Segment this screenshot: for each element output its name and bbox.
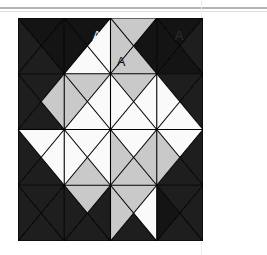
area-label-2: A xyxy=(117,54,126,69)
top-divider-rule xyxy=(0,7,267,9)
area-label-1: A xyxy=(93,28,102,43)
grid-line-group xyxy=(18,18,203,241)
triangle-quilt-figure: AAAA xyxy=(18,18,203,241)
figure-canvas: AAAA xyxy=(0,0,267,255)
top-hairline-rule xyxy=(0,11,267,12)
area-label-3: A xyxy=(151,54,160,69)
area-label-4: A xyxy=(175,28,184,43)
triangle-grid-svg: AAAA xyxy=(18,18,203,241)
